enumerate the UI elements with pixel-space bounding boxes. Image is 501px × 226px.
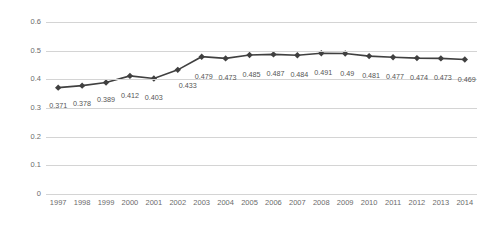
data-point-label: 0.485 [243, 71, 261, 79]
y-axis-tick-label: 0 [37, 190, 41, 198]
x-axis-tick-label: 2008 [313, 198, 330, 208]
data-point-marker [462, 56, 468, 62]
x-axis-tick-label: 2013 [433, 198, 450, 208]
data-point-label: 0.412 [121, 92, 139, 100]
x-axis: 1997199819992000200120022003200420052006… [46, 198, 477, 214]
y-axis: 00.10.20.30.40.50.6 [0, 22, 41, 194]
data-point-marker [390, 54, 396, 60]
x-axis-tick-label: 2007 [289, 198, 306, 208]
data-point-label: 0.487 [266, 70, 284, 78]
gridline [46, 194, 477, 195]
data-point-label: 0.481 [362, 72, 380, 80]
data-point-label: 0.484 [290, 71, 308, 79]
x-axis-tick-label: 1998 [74, 198, 91, 208]
x-axis-tick-label: 2000 [122, 198, 139, 208]
data-point-marker [246, 52, 252, 58]
data-point-label: 0.491 [314, 69, 332, 77]
gridline [46, 22, 477, 23]
x-axis-tick-label: 2006 [265, 198, 282, 208]
data-point-marker [366, 53, 372, 59]
data-point-label: 0.473 [219, 74, 237, 82]
data-point-label: 0.389 [97, 96, 115, 104]
data-point-marker [414, 55, 420, 61]
data-point-label: 0.403 [145, 94, 163, 102]
y-axis-tick-label: 0.2 [31, 133, 41, 141]
plot-area: 0.3710.3780.3890.4120.4030.4330.4790.473… [46, 22, 477, 194]
line-chart: 00.10.20.30.40.50.6 0.3710.3780.3890.412… [0, 0, 501, 226]
data-point-label: 0.473 [434, 74, 452, 82]
x-axis-tick-label: 1997 [50, 198, 67, 208]
y-axis-tick-label: 0.4 [31, 75, 41, 83]
x-axis-tick-label: 1999 [98, 198, 115, 208]
y-axis-tick-label: 0.1 [31, 161, 41, 169]
x-axis-tick-label: 2005 [241, 198, 258, 208]
data-point-marker [55, 84, 61, 90]
series-polyline [58, 53, 465, 87]
data-point-label: 0.479 [195, 73, 213, 81]
x-axis-tick-label: 2014 [456, 198, 473, 208]
y-axis-tick-label: 0.6 [31, 18, 41, 26]
x-axis-tick-label: 2002 [169, 198, 186, 208]
data-point-marker [294, 52, 300, 58]
data-point-marker [438, 55, 444, 61]
y-axis-tick-label: 0.3 [31, 104, 41, 112]
gridline [46, 137, 477, 138]
data-point-marker [175, 67, 181, 73]
data-point-label: 0.477 [386, 73, 404, 81]
data-point-label: 0.474 [410, 74, 428, 82]
x-axis-tick-label: 2009 [337, 198, 354, 208]
data-point-marker [222, 55, 228, 61]
data-point-marker [199, 53, 205, 59]
gridline [46, 165, 477, 166]
x-axis-tick-label: 2011 [385, 198, 401, 208]
x-axis-tick-label: 2001 [146, 198, 163, 208]
gridline [46, 51, 477, 52]
x-axis-tick-label: 2012 [409, 198, 426, 208]
data-point-label: 0.371 [49, 102, 67, 110]
x-axis-tick-label: 2004 [217, 198, 234, 208]
y-axis-tick-label: 0.5 [31, 47, 41, 55]
data-point-label: 0.433 [179, 82, 197, 90]
data-point-marker [79, 82, 85, 88]
data-point-label: 0.378 [73, 100, 91, 108]
data-point-label: 0.49 [340, 70, 354, 78]
data-point-marker [270, 51, 276, 57]
x-axis-tick-label: 2003 [193, 198, 210, 208]
gridline [46, 108, 477, 109]
data-point-label: 0.469 [458, 76, 476, 84]
x-axis-tick-label: 2010 [361, 198, 378, 208]
data-point-marker [127, 73, 133, 79]
